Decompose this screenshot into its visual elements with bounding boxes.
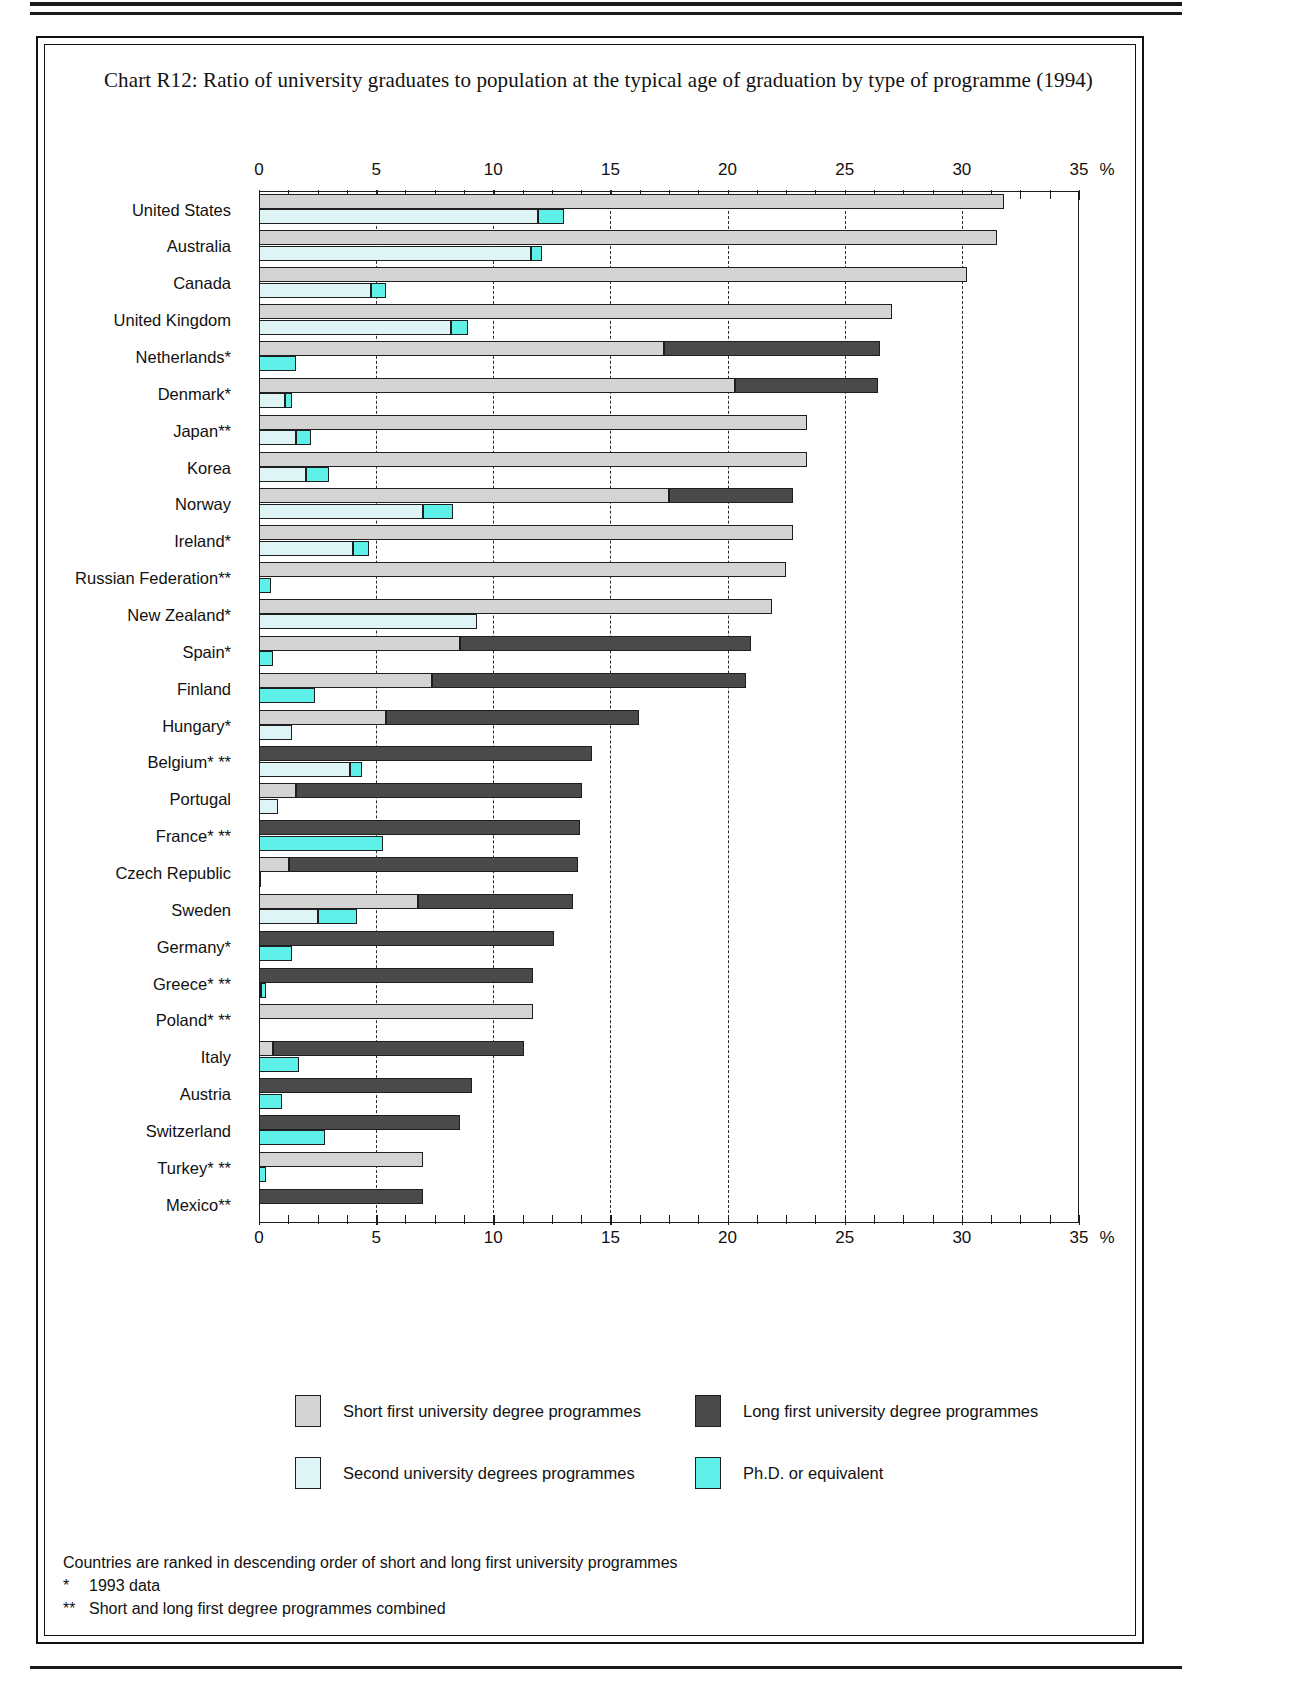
bar-segment-short-first-degree (259, 857, 289, 872)
bar-segment-short-first-degree (259, 194, 1004, 209)
bar-segment-long-first-degree (259, 1078, 472, 1093)
country-label: Denmark* (158, 385, 231, 404)
x-tick-label: 0 (254, 1228, 263, 1248)
legend-label-second: Second university degrees programmes (343, 1464, 635, 1483)
bar-segment-phd (423, 504, 453, 519)
bar-segment-phd (259, 356, 296, 371)
legend-item-phd: Ph.D. or equivalent (695, 1457, 883, 1489)
x-tick-label: 5 (371, 1228, 380, 1248)
bar-segment-short-first-degree (259, 488, 669, 503)
bar-segment-phd (538, 209, 564, 224)
country-label: Portugal (170, 790, 231, 809)
bar-segment-long-first-degree (418, 894, 573, 909)
chart-row (259, 412, 1079, 449)
country-label: Japan** (173, 422, 231, 441)
country-label: Greece* ** (153, 975, 231, 994)
legend-item-long: Long first university degree programmes (695, 1395, 1038, 1427)
country-label: Czech Republic (115, 864, 231, 883)
country-label: Austria (180, 1085, 231, 1104)
bar-segment-second-degree (259, 320, 451, 335)
country-label: Belgium* ** (148, 753, 231, 772)
bar-segment-second-degree (259, 762, 350, 777)
chart-page: Chart R12: Ratio of university graduates… (0, 0, 1312, 1703)
legend-item-second: Second university degrees programmes (295, 1457, 635, 1489)
chart-row (259, 1002, 1079, 1039)
x-tick-label: 30 (952, 160, 971, 180)
bar-segment-short-first-degree (259, 1152, 423, 1167)
bar-segment-long-first-degree (432, 673, 746, 688)
bar-segment-phd (350, 762, 362, 777)
x-tick-label: 0 (254, 160, 263, 180)
bar-segment-phd (531, 246, 543, 261)
chart-row (259, 560, 1079, 597)
chart-row (259, 228, 1079, 265)
country-label: Spain* (182, 643, 231, 662)
chart-row (259, 854, 1079, 891)
bar-segment-short-first-degree (259, 304, 892, 319)
bar-segment-short-first-degree (259, 1041, 273, 1056)
chart-row (259, 338, 1079, 375)
x-axis-labels-top: 05101520253035% (259, 160, 1139, 182)
country-label: Netherlands* (136, 348, 231, 367)
x-tick-label: 30 (952, 1228, 971, 1248)
chart-row (259, 1149, 1079, 1186)
x-tick-label: 10 (484, 160, 503, 180)
bar-segment-phd (353, 541, 369, 556)
country-label: Russian Federation** (75, 569, 231, 588)
footnote-text: Short and long first degree programmes c… (89, 1597, 446, 1620)
bar-segment-long-first-degree (669, 488, 793, 503)
legend-label-long: Long first university degree programmes (743, 1402, 1038, 1421)
chart-row (259, 1076, 1079, 1113)
x-tick-label: 25 (835, 160, 854, 180)
footnote-row: Countries are ranked in descending order… (63, 1551, 963, 1574)
x-axis-labels-bottom: 05101520253035% (259, 1228, 1139, 1250)
country-label: Turkey* ** (157, 1159, 231, 1178)
bar-segment-short-first-degree (259, 562, 786, 577)
chart-row (259, 1112, 1079, 1149)
bar-segment-long-first-degree (735, 378, 878, 393)
bar-segment-second-degree (259, 283, 371, 298)
chart-row (259, 744, 1079, 781)
bar-segment-phd (259, 1094, 282, 1109)
country-label: United States (132, 201, 231, 220)
bar-segment-short-first-degree (259, 267, 967, 282)
x-axis-unit: % (1099, 1228, 1114, 1248)
country-label: Sweden (171, 901, 231, 920)
country-label: Germany* (157, 938, 231, 957)
legend-swatch-phd (695, 1457, 721, 1489)
legend-swatch-long (695, 1395, 721, 1427)
bar-segment-phd (259, 946, 292, 961)
legend-label-short: Short first university degree programmes (343, 1402, 641, 1421)
bar-segment-long-first-degree (259, 1115, 460, 1130)
chart-row (259, 191, 1079, 228)
legend-item-short: Short first university degree programmes (295, 1395, 641, 1427)
legend-swatch-second (295, 1457, 321, 1489)
country-label: Switzerland (146, 1122, 231, 1141)
bar-segment-second-degree (259, 430, 296, 445)
bar-segment-second-degree (259, 467, 306, 482)
bar-segment-second-degree (259, 393, 285, 408)
x-tick-label: 5 (371, 160, 380, 180)
bar-segment-phd (259, 688, 315, 703)
bar-segment-second-degree (259, 799, 278, 814)
x-tick-label: 35 (1070, 1228, 1089, 1248)
bar-segment-long-first-degree (273, 1041, 524, 1056)
bar-segment-short-first-degree (259, 599, 772, 614)
chart-row (259, 1186, 1079, 1223)
country-label: New Zealand* (127, 606, 231, 625)
country-label: Finland (177, 680, 231, 699)
chart-row (259, 302, 1079, 339)
bar-segment-long-first-degree (460, 636, 751, 651)
axis-tick (1079, 190, 1080, 200)
country-label: Ireland* (174, 532, 231, 551)
x-tick-label: 15 (601, 160, 620, 180)
bar-segment-long-first-degree (259, 746, 592, 761)
chart-row (259, 670, 1079, 707)
bar-segment-short-first-degree (259, 1004, 533, 1019)
x-tick-label: 35 (1070, 160, 1089, 180)
bar-segment-long-first-degree (259, 1189, 423, 1204)
legend-label-phd: Ph.D. or equivalent (743, 1464, 883, 1483)
chart-row (259, 781, 1079, 818)
page-top-rule-thick (30, 2, 1182, 6)
bar-segment-phd (261, 983, 266, 998)
